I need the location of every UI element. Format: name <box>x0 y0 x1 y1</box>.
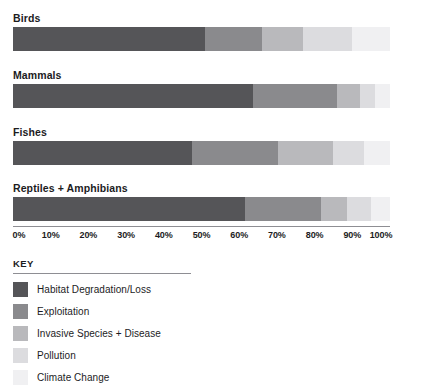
legend-item-label: Climate Change <box>37 372 109 383</box>
legend-item: Invasive Species + Disease <box>13 322 203 344</box>
legend-item: Exploitation <box>13 300 203 322</box>
legend: KEY Habitat Degradation/LossExploitation… <box>13 258 203 388</box>
x-axis-tick-label: 60% <box>230 230 248 240</box>
bar-segment <box>262 27 303 51</box>
bar-segment <box>278 141 333 165</box>
x-axis-tick-label: 10% <box>42 230 60 240</box>
bar-group: Fishes <box>13 126 390 165</box>
legend-item: Pollution <box>13 344 203 366</box>
legend-swatch-icon <box>13 304 28 319</box>
legend-swatch-icon <box>13 370 28 385</box>
bar-segment <box>371 197 390 221</box>
bar-category-label: Birds <box>13 12 390 24</box>
bar-segment <box>337 84 360 108</box>
bar-category-label: Fishes <box>13 126 390 138</box>
bar-track <box>13 27 390 51</box>
bar-segment <box>205 27 262 51</box>
bar-group: Reptiles + Amphibians <box>13 182 390 221</box>
stacked-bar-chart: BirdsMammalsFishesReptiles + Amphibians <box>0 0 432 248</box>
bar-segment <box>13 141 192 165</box>
bar-group: Birds <box>13 12 390 51</box>
x-axis-tick-label: 100% <box>370 230 393 240</box>
x-axis-tick-label: 90% <box>343 230 361 240</box>
legend-item-label: Exploitation <box>37 306 89 317</box>
bar-segment <box>303 27 352 51</box>
x-axis-tick-labels: 0%10%20%30%40%50%60%70%80%90%100% <box>13 227 390 241</box>
legend-divider <box>13 273 191 274</box>
legend-items: Habitat Degradation/LossExploitationInva… <box>13 278 203 388</box>
bar-track <box>13 141 390 165</box>
bar-category-label: Reptiles + Amphibians <box>13 182 390 194</box>
x-axis-tick-label: 40% <box>155 230 173 240</box>
bar-category-label: Mammals <box>13 69 390 81</box>
bar-track <box>13 197 390 221</box>
bar-segment <box>192 141 278 165</box>
legend-title: KEY <box>13 258 203 270</box>
x-axis: 0%10%20%30%40%50%60%70%80%90%100% <box>13 226 390 241</box>
x-axis-tick-label: 0% <box>13 230 26 240</box>
bar-segment <box>347 197 371 221</box>
legend-item: Habitat Degradation/Loss <box>13 278 203 300</box>
legend-item-label: Habitat Degradation/Loss <box>37 284 151 295</box>
x-axis-tick-label: 20% <box>80 230 98 240</box>
legend-item-label: Pollution <box>37 350 76 361</box>
bar-track <box>13 84 390 108</box>
bar-segment <box>375 84 390 108</box>
bar-segment <box>13 84 253 108</box>
bar-segment <box>321 197 347 221</box>
x-axis-tick-label: 50% <box>193 230 211 240</box>
bar-segment <box>245 197 321 221</box>
bar-segment <box>333 141 363 165</box>
bar-group: Mammals <box>13 69 390 108</box>
bar-segment <box>360 84 375 108</box>
bar-segment <box>364 141 390 165</box>
x-axis-tick-label: 30% <box>117 230 135 240</box>
legend-item: Climate Change <box>13 366 203 388</box>
bar-segment <box>253 84 337 108</box>
legend-swatch-icon <box>13 348 28 363</box>
x-axis-tick-label: 80% <box>306 230 324 240</box>
legend-item-label: Invasive Species + Disease <box>37 328 161 339</box>
legend-swatch-icon <box>13 326 28 341</box>
bar-segment <box>352 27 390 51</box>
bar-segment <box>13 197 245 221</box>
x-axis-tick-label: 70% <box>268 230 286 240</box>
legend-swatch-icon <box>13 282 28 297</box>
bar-segment <box>13 27 205 51</box>
